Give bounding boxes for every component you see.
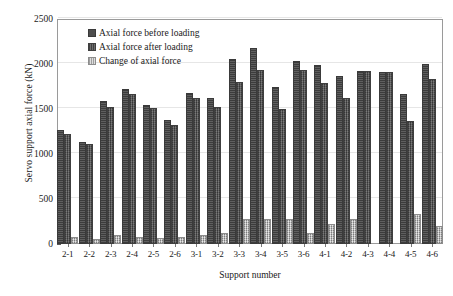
bar bbox=[357, 71, 364, 244]
legend-swatch-icon bbox=[88, 29, 96, 37]
bar bbox=[200, 235, 207, 244]
bar bbox=[193, 98, 200, 244]
bar bbox=[107, 107, 114, 244]
legend-item: Axial force before loading bbox=[88, 27, 200, 38]
x-tick-label: 3-6 bbox=[293, 249, 314, 259]
y-tick-label: 0 bbox=[5, 239, 57, 249]
bar bbox=[429, 79, 436, 244]
y-axis-ticks: 05001000150020002500 bbox=[0, 19, 57, 244]
x-tick-mark bbox=[304, 244, 305, 247]
bar bbox=[286, 219, 293, 244]
bar bbox=[422, 64, 429, 244]
bar bbox=[336, 76, 343, 244]
x-tick-mark bbox=[282, 244, 283, 247]
bar-group bbox=[293, 19, 314, 244]
bar bbox=[414, 214, 421, 244]
bar bbox=[122, 89, 129, 244]
x-tick-label: 2-6 bbox=[164, 249, 185, 259]
x-tick-label: 4-5 bbox=[400, 249, 421, 259]
chart-legend: Axial force before loadingAxial force af… bbox=[88, 27, 200, 66]
bar bbox=[186, 93, 193, 244]
bar bbox=[236, 82, 243, 244]
legend-label: Axial force before loading bbox=[99, 28, 200, 38]
bar bbox=[272, 87, 279, 244]
bar-group bbox=[314, 19, 335, 244]
x-tick-mark bbox=[68, 244, 69, 247]
x-tick-mark bbox=[196, 244, 197, 247]
bar bbox=[207, 98, 214, 244]
y-tick-label: 500 bbox=[5, 194, 57, 204]
x-tick-label: 4-6 bbox=[421, 249, 442, 259]
bar bbox=[300, 70, 307, 244]
x-tick-label: 4-4 bbox=[379, 249, 400, 259]
x-tick-mark bbox=[89, 244, 90, 247]
bar bbox=[221, 233, 228, 244]
bar bbox=[386, 72, 393, 244]
bar-group bbox=[357, 19, 378, 244]
bar bbox=[150, 108, 157, 244]
bar-group bbox=[379, 19, 400, 244]
x-tick-mark bbox=[111, 244, 112, 247]
bar bbox=[178, 237, 185, 244]
x-tick-mark bbox=[346, 244, 347, 247]
x-tick-label: 3-2 bbox=[207, 249, 228, 259]
bar bbox=[243, 219, 250, 244]
bar bbox=[379, 72, 386, 244]
bar bbox=[79, 142, 86, 244]
bar bbox=[328, 224, 335, 244]
bar bbox=[321, 83, 328, 244]
legend-swatch-icon bbox=[88, 57, 96, 65]
x-tick-mark bbox=[368, 244, 369, 247]
x-tick-label: 4-1 bbox=[314, 249, 335, 259]
bar bbox=[364, 71, 371, 244]
bar bbox=[71, 237, 78, 244]
bar bbox=[264, 219, 271, 244]
x-tick-label: 3-5 bbox=[271, 249, 292, 259]
bar-group bbox=[421, 19, 442, 244]
x-tick-label: 3-1 bbox=[186, 249, 207, 259]
bar bbox=[86, 144, 93, 244]
x-tick-mark bbox=[218, 244, 219, 247]
bar bbox=[407, 121, 414, 244]
bar bbox=[64, 134, 71, 244]
x-tick-label: 3-4 bbox=[250, 249, 271, 259]
y-tick-label: 2000 bbox=[5, 59, 57, 69]
x-tick-mark bbox=[389, 244, 390, 247]
y-tick-label: 1000 bbox=[5, 149, 57, 159]
bar-group bbox=[336, 19, 357, 244]
bar bbox=[314, 65, 321, 244]
bar bbox=[436, 226, 443, 244]
y-tick-label: 1500 bbox=[5, 104, 57, 114]
x-tick-mark bbox=[153, 244, 154, 247]
bar bbox=[136, 237, 143, 244]
legend-swatch-icon bbox=[88, 43, 96, 51]
x-tick-label: 3-3 bbox=[229, 249, 250, 259]
x-tick-label: 2-1 bbox=[57, 249, 78, 259]
bar bbox=[129, 94, 136, 245]
bar-group bbox=[400, 19, 421, 244]
x-tick-mark bbox=[432, 244, 433, 247]
gridline bbox=[58, 17, 442, 18]
bar-group bbox=[57, 19, 78, 244]
x-tick-label: 2-2 bbox=[78, 249, 99, 259]
bar bbox=[400, 94, 407, 244]
legend-label: Axial force after loading bbox=[99, 42, 193, 52]
bar bbox=[143, 105, 150, 244]
bar bbox=[100, 101, 107, 244]
x-tick-mark bbox=[239, 244, 240, 247]
x-tick-label: 4-3 bbox=[357, 249, 378, 259]
x-tick-mark bbox=[411, 244, 412, 247]
bar bbox=[257, 70, 264, 244]
bar-group bbox=[250, 19, 271, 244]
legend-item: Change of axial force bbox=[88, 55, 200, 66]
bar bbox=[250, 48, 257, 244]
x-tick-mark bbox=[175, 244, 176, 247]
x-tick-mark bbox=[261, 244, 262, 247]
bar bbox=[164, 120, 171, 244]
bar-group bbox=[207, 19, 228, 244]
bar bbox=[350, 219, 357, 244]
x-tick-label: 2-3 bbox=[100, 249, 121, 259]
x-tick-label: 2-5 bbox=[143, 249, 164, 259]
y-tick-label: 2500 bbox=[5, 14, 57, 24]
x-tick-mark bbox=[325, 244, 326, 247]
